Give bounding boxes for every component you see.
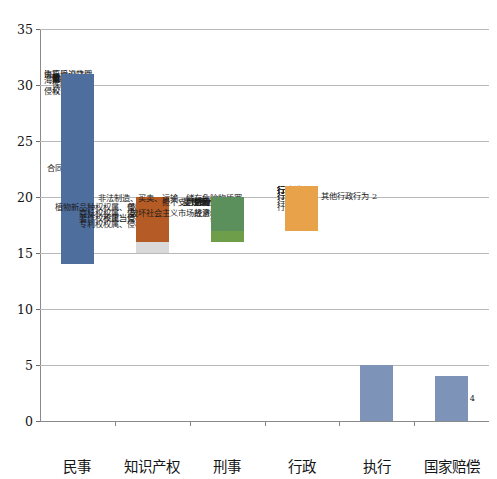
y-tick-mark bbox=[36, 141, 40, 142]
y-tick-label: 35 bbox=[17, 22, 33, 37]
bar-行政[interactable] bbox=[285, 186, 318, 421]
y-tick-label: 25 bbox=[17, 134, 33, 149]
gridline bbox=[40, 309, 489, 310]
bar-segment[interactable] bbox=[435, 376, 468, 421]
y-tick-label: 0 bbox=[25, 414, 33, 429]
gridline bbox=[40, 253, 489, 254]
x-tick-mark bbox=[265, 421, 266, 426]
y-tick-mark bbox=[36, 309, 40, 310]
x-category-label-民事: 民事 bbox=[63, 455, 91, 476]
bar-刑事[interactable] bbox=[211, 197, 244, 421]
bar-segment[interactable] bbox=[360, 365, 393, 421]
y-tick-label: 10 bbox=[17, 302, 33, 317]
bar-segment[interactable] bbox=[61, 74, 94, 96]
x-category-label-执行: 执行 bbox=[363, 455, 391, 476]
x-category-label-行政: 行政 bbox=[288, 455, 316, 476]
x-tick-mark bbox=[115, 421, 116, 426]
x-tick-mark bbox=[339, 421, 340, 426]
bar-民事[interactable] bbox=[61, 74, 94, 421]
bar-国家赔偿[interactable] bbox=[435, 376, 468, 421]
x-tick-mark bbox=[190, 421, 191, 426]
gridline bbox=[40, 141, 489, 142]
gridline bbox=[40, 29, 489, 30]
bar-知识产权[interactable] bbox=[136, 197, 169, 421]
y-tick-mark bbox=[36, 197, 40, 198]
y-tick-mark bbox=[36, 365, 40, 366]
y-tick-label: 15 bbox=[17, 246, 33, 261]
segment-label: 其他行政行为 2 bbox=[321, 192, 377, 201]
y-tick-mark bbox=[36, 421, 40, 422]
y-tick-label: 5 bbox=[25, 358, 33, 373]
y-tick-mark bbox=[36, 253, 40, 254]
plot-area: 05101520253035执行异议之诉 1物权纠纷 1侵权责任纠纷 4破产纠纷… bbox=[40, 29, 489, 421]
top-artifact-text bbox=[4, 1, 214, 8]
gridline bbox=[40, 365, 489, 366]
bar-segment[interactable] bbox=[211, 197, 244, 208]
gridline bbox=[40, 85, 489, 86]
x-category-label-知识产权: 知识产权 bbox=[124, 455, 180, 476]
x-category-label-刑事: 刑事 bbox=[213, 455, 241, 476]
bar-segment[interactable] bbox=[285, 186, 318, 231]
x-tick-mark bbox=[414, 421, 415, 426]
x-category-label-国家赔偿: 国家赔偿 bbox=[424, 455, 480, 476]
y-tick-label: 20 bbox=[17, 190, 33, 205]
bar-执行[interactable] bbox=[360, 365, 393, 421]
y-tick-label: 30 bbox=[17, 78, 33, 93]
y-tick-mark bbox=[36, 29, 40, 30]
stacked-bar-chart: 05101520253035执行异议之诉 1物权纠纷 1侵权责任纠纷 4破产纠纷… bbox=[0, 0, 497, 479]
